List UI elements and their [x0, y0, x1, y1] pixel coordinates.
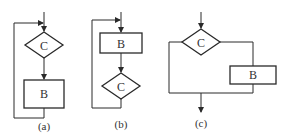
process-label-b: B — [117, 37, 125, 51]
diagram-b: B C (b) — [92, 12, 142, 131]
right-branch-line-c — [220, 42, 253, 66]
decision-label-a: C — [40, 39, 48, 53]
process-label-c: B — [249, 68, 257, 82]
merge-line-c — [201, 84, 253, 93]
flowchart-canvas: C B (a) B C (b) C B (c) — [0, 0, 286, 137]
decision-label-c: C — [197, 36, 205, 50]
decision-label-b: C — [117, 80, 125, 94]
caption-c: (c) — [195, 117, 208, 130]
caption-a: (a) — [38, 120, 51, 133]
process-label-a: B — [40, 87, 48, 101]
diagram-a: C B (a) — [14, 12, 64, 133]
diagram-c: C B (c) — [169, 12, 276, 130]
caption-b: (b) — [115, 118, 128, 131]
